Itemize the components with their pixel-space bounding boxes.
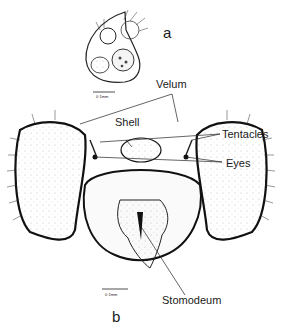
panel-a-scale-label: 0·1mm	[96, 94, 108, 99]
label-shell: Shell	[115, 116, 139, 128]
label-eyes: Eyes	[226, 157, 250, 169]
label-stomodeum: Stomodeum	[162, 294, 221, 306]
label-velum: Velum	[156, 78, 187, 90]
label-tentacles: Tentacles	[222, 128, 268, 140]
panel-a-larva	[86, 10, 148, 92]
panel-b-scale-label: 0·1mm	[105, 292, 117, 297]
panel-a-letter: a	[163, 24, 171, 41]
panel-b-letter: b	[112, 308, 120, 325]
